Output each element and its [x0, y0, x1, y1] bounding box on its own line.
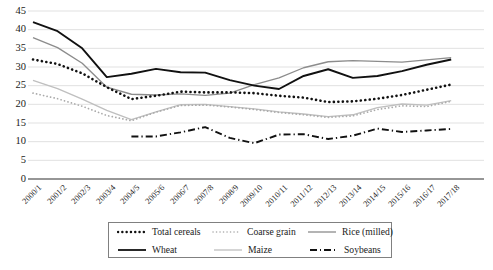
- series-line: [33, 22, 451, 89]
- legend-swatch-rice-milled: [307, 227, 337, 237]
- legend-row-1: Total cereals Coarse grain Rice (milled): [109, 223, 393, 241]
- legend-swatch-total-cereals: [117, 227, 147, 237]
- legend-label-coarse-grain: Coarse grain: [247, 227, 296, 237]
- legend-item-coarse-grain: Coarse grain: [212, 223, 307, 241]
- legend-item-rice-milled: Rice (milled): [307, 223, 393, 241]
- legend-item-maize: Maize: [213, 241, 309, 259]
- legend-row-2: Wheat Maize Soybeans: [109, 241, 393, 259]
- line-chart: 051015202530354045 2000/12001/22002/3200…: [0, 0, 493, 270]
- series-line: [33, 60, 451, 103]
- y-axis-tick-label: 0: [0, 174, 26, 184]
- y-axis-tick-label: 25: [0, 80, 26, 90]
- series-line: [33, 80, 451, 119]
- legend-item-soybeans: Soybeans: [309, 241, 381, 259]
- chart-legend: Total cereals Coarse grain Rice (milled)…: [108, 222, 392, 258]
- legend-label-rice-milled: Rice (milled): [342, 227, 393, 237]
- series-line: [33, 38, 451, 96]
- legend-item-wheat: Wheat: [117, 241, 213, 259]
- y-axis-tick-label: 45: [0, 6, 26, 16]
- y-axis-tick-label: 30: [0, 62, 26, 72]
- legend-swatch-soybeans: [309, 245, 339, 255]
- legend-label-total-cereals: Total cereals: [152, 227, 201, 237]
- legend-label-wheat: Wheat: [152, 245, 177, 255]
- legend-label-maize: Maize: [248, 245, 272, 255]
- gridlines: [28, 11, 484, 179]
- legend-swatch-maize: [213, 245, 243, 255]
- data-series-group: [33, 22, 451, 143]
- y-axis-tick-label: 35: [0, 43, 26, 53]
- legend-swatch-coarse-grain: [212, 227, 242, 237]
- series-line: [131, 127, 451, 143]
- legend-label-soybeans: Soybeans: [344, 245, 381, 255]
- y-axis-tick-label: 40: [0, 24, 26, 34]
- y-axis-tick-label: 10: [0, 136, 26, 146]
- y-axis-tick-label: 5: [0, 155, 26, 165]
- legend-swatch-wheat: [117, 245, 147, 255]
- y-axis-tick-label: 15: [0, 118, 26, 128]
- legend-item-total-cereals: Total cereals: [117, 223, 212, 241]
- y-axis-tick-label: 20: [0, 99, 26, 109]
